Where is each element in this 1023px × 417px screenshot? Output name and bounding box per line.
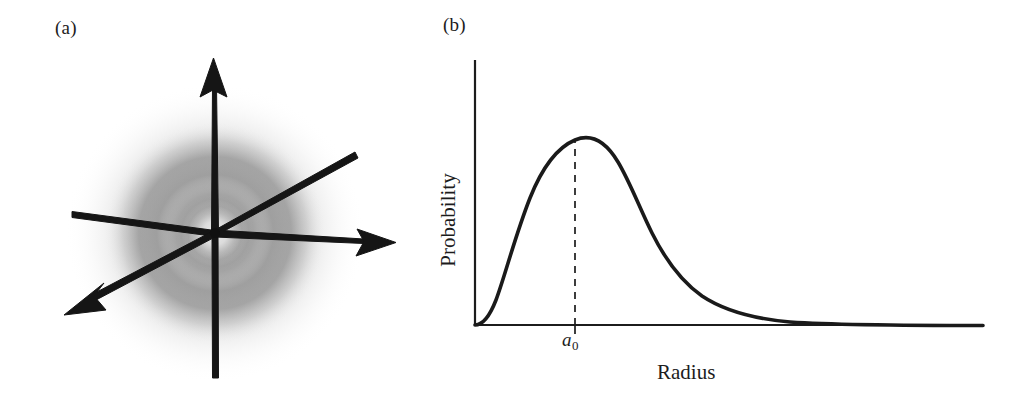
bohr-radius-label: a0 [562,329,579,354]
probability-curve [475,138,983,326]
x-axis-label: Radius [657,360,715,385]
panel-a: (a) [0,0,430,417]
panel-b: (b) Probability Radius a0 [430,0,1023,417]
radial-probability-plot [430,0,1023,417]
axis-down-ray [212,233,219,378]
figure-root: (a) [0,0,1023,417]
electron-cloud-diagram [0,0,430,417]
y-axis-label-wrapper: Probability [433,150,463,290]
origin-nucleus-dot [210,228,220,238]
bohr-radius-symbol: a [562,329,572,350]
y-axis-label: Probability [436,173,461,266]
bohr-radius-subscript: 0 [572,338,579,353]
